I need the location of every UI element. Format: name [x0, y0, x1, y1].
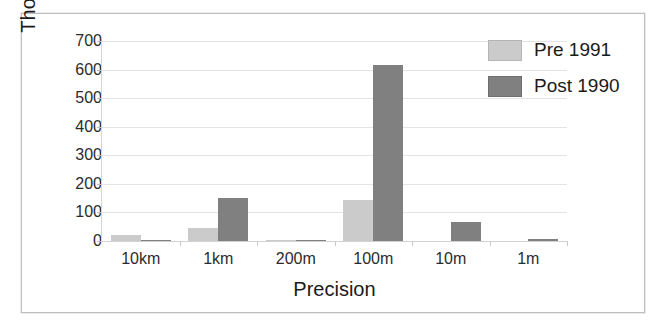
- bar-pre-1991-10km: [111, 235, 141, 241]
- y-axis-tick-label: 700: [56, 32, 102, 50]
- y-axis-tick-label: 500: [56, 89, 102, 107]
- legend-label: Post 1990: [534, 75, 620, 97]
- legend-swatch-post-1990: [488, 76, 522, 97]
- bar-post-1990-10m: [451, 222, 481, 241]
- x-axis-tick-label-1m: 1m: [490, 250, 568, 268]
- chart-legend: Pre 1991Post 1990: [488, 38, 638, 110]
- bar-post-1990-1m: [528, 239, 558, 241]
- bar-post-1990-1km: [218, 198, 248, 241]
- y-axis-tick-label: 400: [56, 118, 102, 136]
- x-axis-tick-mark: [567, 241, 568, 246]
- bar-group: [257, 41, 335, 241]
- bar-post-1990-10km: [141, 240, 171, 241]
- x-axis-tick-label-200m: 200m: [257, 250, 335, 268]
- x-axis-tick-mark: [490, 241, 491, 246]
- bar-post-1990-100m: [373, 65, 403, 241]
- x-axis-tick-mark: [180, 241, 181, 246]
- y-axis-tick-label: 0: [56, 232, 102, 250]
- x-axis-tick-label-1km: 1km: [180, 250, 258, 268]
- y-axis-tick-label: 200: [56, 175, 102, 193]
- bar-post-1990-200m: [296, 240, 326, 241]
- y-axis-tick-labels: 0100200300400500600700: [42, 41, 102, 241]
- x-axis-tick-mark: [335, 241, 336, 246]
- legend-item-pre-1991: Pre 1991: [488, 38, 638, 62]
- x-axis-tick-mark: [257, 241, 258, 246]
- x-axis-tick-label-100m: 100m: [335, 250, 413, 268]
- bar-pre-1991-1km: [188, 228, 218, 241]
- x-axis-title: Precision: [102, 278, 567, 301]
- y-axis-title: Thousands of records: [15, 0, 41, 50]
- y-axis-tick-label: 600: [56, 61, 102, 79]
- legend-item-post-1990: Post 1990: [488, 74, 638, 98]
- bar-pre-1991-100m: [343, 200, 373, 241]
- legend-label: Pre 1991: [534, 39, 611, 61]
- x-axis-tick-label-10km: 10km: [102, 250, 180, 268]
- x-axis-tick-mark: [412, 241, 413, 246]
- bar-group: [335, 41, 413, 241]
- bar-group: [180, 41, 258, 241]
- x-axis-tick-label-10m: 10m: [412, 250, 490, 268]
- bar-group: [102, 41, 180, 241]
- y-axis-tick-label: 300: [56, 146, 102, 164]
- y-axis-tick-label: 100: [56, 203, 102, 221]
- bar-group: [412, 41, 490, 241]
- bar-pre-1991-200m: [266, 240, 296, 241]
- legend-swatch-pre-1991: [488, 40, 522, 61]
- chart-figure: Thousands of records 0100200300400500600…: [21, 13, 645, 313]
